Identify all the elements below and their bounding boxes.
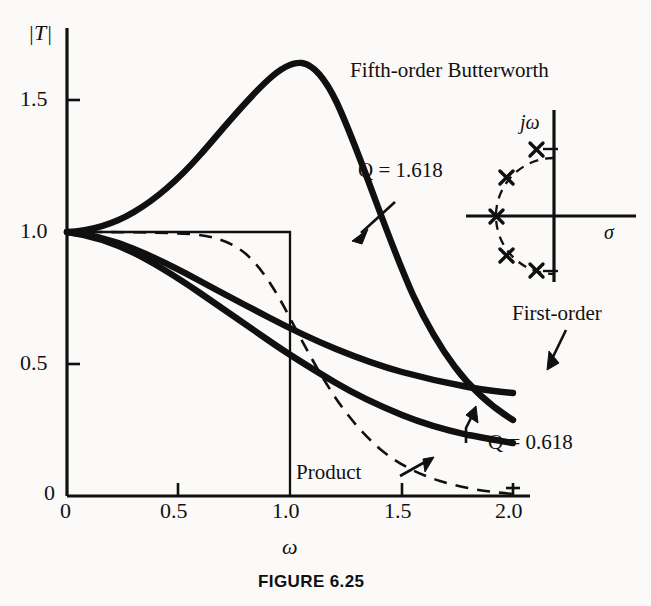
y-tick-label-1.5: 1.5 [20,88,48,110]
y-tick-label-0.5: 0.5 [20,352,48,374]
x-axis-ticks [178,483,513,496]
inset-real-axis-label: σ [604,222,614,242]
annotation-product: Product [296,462,361,483]
pole-marker-3 [530,143,543,156]
arrow-head-product [423,457,434,472]
x-tick-label-1.5: 1.5 [384,500,412,522]
y-tick-label-0: 0 [44,482,55,504]
y-axis-label: |T| [28,22,52,44]
y-tick-label-1.0: 1.0 [20,220,48,242]
annotation-q-0618: Q = 0.618 [488,432,573,453]
axis-lines [67,28,530,496]
chart-title: Fifth-order Butterworth [350,60,549,81]
annotation-q-1618: Q = 1.618 [358,160,443,181]
x-tick-label-2.0: 2.0 [495,500,523,522]
annotation-first-order: First-order [512,303,602,324]
figure-caption: FIGURE 6.25 [258,572,364,592]
x-tick-label-0: 0 [60,500,71,522]
x-axis-label: ω [282,536,298,558]
inset-pole-markers [490,143,543,277]
x-tick-label-0.5: 0.5 [160,500,188,522]
arrow-head-q-1618 [352,229,368,244]
arrow-line-q-0618 [466,416,472,443]
arrow-head-first-order [547,351,559,370]
pole-zero-inset [466,110,636,282]
pole-marker-5 [530,264,543,277]
x-tick-label-1.0: 1.0 [272,500,300,522]
figure-page: |T| 1.0 0.5 1.5 0 0 0.5 1.0 1.5 2.0 ω Fi… [0,0,651,606]
inset-imaginary-axis-label: jω [520,112,540,132]
arrow-head-q-0618 [466,406,478,423]
